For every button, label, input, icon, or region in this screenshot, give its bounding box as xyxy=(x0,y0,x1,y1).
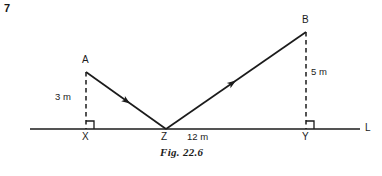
point-label-b: B xyxy=(302,15,309,25)
measure-label-3m: 3 m xyxy=(55,92,71,102)
measure-label-12m: 12 m xyxy=(187,132,208,142)
measure-label-5m: 5 m xyxy=(311,67,327,77)
line-label-l: L xyxy=(365,123,371,133)
figure-caption: Fig. 22.6 xyxy=(160,146,203,158)
point-label-x: X xyxy=(82,132,89,142)
point-label-y: Y xyxy=(302,132,309,142)
figure-container: 7 A B X Y Z L 3 m 5 m 12 m Fig. 22.6 xyxy=(0,0,382,176)
right-angle-marker-at-x xyxy=(86,121,94,129)
point-label-a: A xyxy=(82,55,89,65)
right-angle-marker-at-y xyxy=(306,121,314,129)
point-label-z: Z xyxy=(161,132,167,142)
